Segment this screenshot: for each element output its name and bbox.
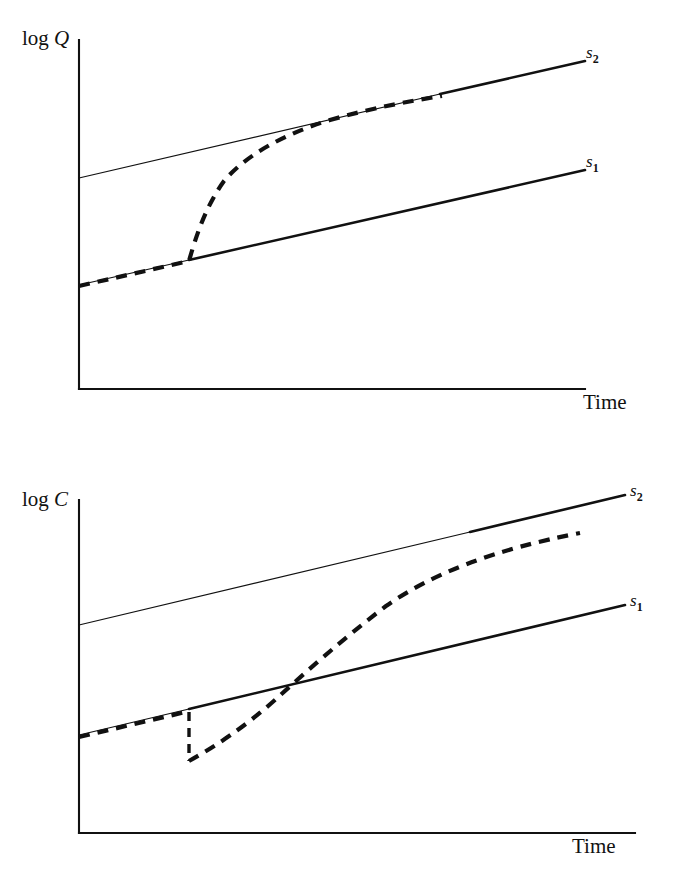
s2-line-thin-segment	[79, 532, 470, 625]
x-axis-label-time: Time	[583, 390, 627, 414]
curve-label-s2-subscript: 2	[637, 490, 643, 504]
curve-label-s1-subscript: 1	[593, 161, 599, 175]
panel-log-c-canvas: log C Time s2 s1	[0, 440, 677, 873]
s2-line-thick-segment	[470, 495, 625, 532]
s1-line-thin-segment	[79, 709, 189, 735]
y-axis-label-variable: C	[54, 487, 69, 511]
transition-path-dashed-rise	[189, 533, 580, 761]
y-axis-label-prefix: log	[22, 487, 54, 511]
y-axis-label-log-c: log C	[22, 487, 69, 511]
transition-path-dashed-presh	[79, 711, 190, 737]
x-axis-label-time: Time	[572, 834, 616, 858]
curve-label-s2: s2	[586, 43, 599, 66]
y-axis-label-variable: Q	[54, 26, 69, 50]
y-axis-label-prefix: log	[22, 26, 54, 50]
s1-line-thick-segment	[189, 170, 585, 260]
curve-label-s1: s1	[586, 152, 599, 175]
y-axis-label-log-q: log Q	[22, 26, 69, 50]
curve-label-s1-subscript: 1	[637, 600, 643, 614]
curve-label-s1: s1	[630, 591, 643, 614]
s1-line-thick-segment	[189, 605, 625, 709]
panel-log-c: log C Time s2 s1	[0, 440, 677, 873]
figure-root: log Q Time s2 s1	[0, 0, 677, 873]
s2-line-thick-segment	[440, 61, 585, 94]
panel-log-q: log Q Time s2 s1	[0, 0, 677, 440]
panel-log-q-canvas: log Q Time s2 s1	[0, 0, 677, 440]
transition-path-dashed	[79, 96, 442, 286]
curve-label-s2: s2	[630, 481, 643, 504]
curve-label-s2-subscript: 2	[593, 52, 599, 66]
